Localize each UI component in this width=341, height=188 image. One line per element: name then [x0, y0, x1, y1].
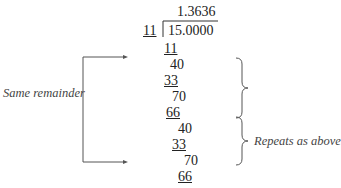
- step-subtract: 66: [166, 106, 180, 120]
- step-remainder: 70: [172, 90, 186, 104]
- same-remainder-label: Same remainder: [3, 86, 85, 101]
- divisor: 11: [143, 24, 156, 38]
- step-subtract: 33: [172, 138, 186, 152]
- step-remainder: 70: [184, 154, 198, 168]
- quotient: 1.3636: [177, 5, 216, 19]
- step-subtract: 66: [178, 170, 192, 184]
- step-remainder: 40: [178, 122, 192, 136]
- repeats-label: Repeats as above: [254, 134, 341, 149]
- step-remainder: 40: [170, 58, 184, 72]
- dividend: 15.0000: [168, 24, 214, 38]
- step-subtract: 11: [164, 42, 177, 56]
- step-subtract: 33: [164, 74, 178, 88]
